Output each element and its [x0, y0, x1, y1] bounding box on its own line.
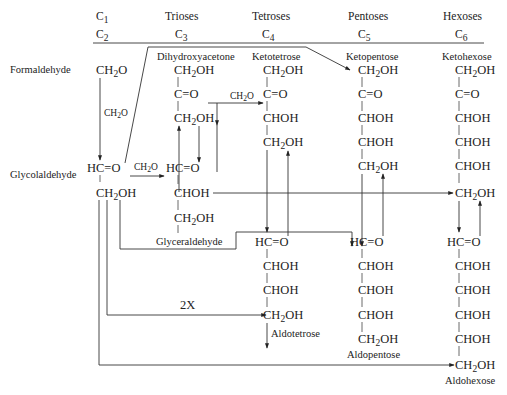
kp-co: C=O [358, 87, 382, 101]
column-header-c1-c2: C1 C2 [96, 10, 109, 43]
ah-chohh-4: CHOH [455, 332, 490, 346]
label-ketotetrose: Ketotetrose [252, 51, 301, 62]
svg-text:Pentoses: Pentoses [348, 10, 389, 22]
dha-ch2oh-bottom: CH2OH [174, 111, 214, 127]
label-dihydroxyacetone: Dihydroxyacetone [157, 51, 235, 62]
column-header-pentoses: Pentoses C5 [348, 10, 389, 43]
arrow-glycolaldehyde-to-ketopentose [125, 47, 350, 163]
kh-co: C=O [455, 87, 479, 101]
label-glycolaldehyde: Glycolaldehyde [10, 169, 77, 180]
kp-ch2oh: CH2OH [358, 63, 398, 79]
ah-chohh-2: CHOH [455, 283, 490, 297]
ap-ch2oh: CH2OH [358, 332, 398, 348]
at-chohh-2: CHOH [263, 283, 298, 297]
column-header-tetroses: Tetroses C4 [252, 10, 291, 43]
formaldehyde-ch2o: CH2O [96, 63, 127, 79]
glyceraldehyde-hco: HC=O [166, 161, 199, 175]
ap-chohh-2: CHOH [358, 283, 393, 297]
svg-text:C4: C4 [262, 28, 275, 43]
svg-text:C1: C1 [96, 10, 109, 25]
ah-ch2oh: CH2OH [455, 358, 495, 374]
label-ketopentose: Ketopentose [346, 51, 399, 62]
column-header-trioses: Trioses C3 [165, 10, 199, 43]
kt-co: C=O [263, 87, 287, 101]
label-formaldehyde: Formaldehyde [10, 64, 71, 75]
kp-chohh-2: CHOH [358, 135, 393, 149]
kt-ch2oh: CH2OH [263, 63, 303, 79]
glyceraldehyde-ch2oh: CH2OH [174, 211, 214, 227]
label-aldohexose: Aldohexose [445, 375, 495, 386]
ah-hco: HC=O [447, 235, 480, 249]
arrow-glycolaldehyde-to-aldopentose [120, 200, 352, 249]
ap-hco: HC=O [350, 235, 383, 249]
label-ch2o-1: CH2O [104, 108, 128, 120]
glycolaldehyde-hco: HC=O [87, 161, 120, 175]
label-glyceraldehyde: Glyceraldehyde [156, 236, 223, 247]
kp-chohh-1: CHOH [358, 111, 393, 125]
svg-text:Trioses: Trioses [165, 10, 199, 22]
svg-text:Hexoses: Hexoses [443, 10, 482, 22]
label-aldotetrose: Aldotetrose [271, 328, 320, 339]
kp-ch2oh-bottom: CH2OH [358, 159, 398, 175]
svg-text:C6: C6 [455, 28, 468, 43]
svg-text:C5: C5 [358, 28, 371, 43]
glyceraldehyde-chohh: CHOH [174, 186, 209, 200]
formose-reaction-diagram: C1 C2 Trioses C3 Tetroses C4 Pentoses C5… [0, 0, 507, 395]
label-ch2o-2: CH2O [134, 162, 158, 174]
svg-text:Tetroses: Tetroses [252, 10, 291, 22]
label-ch2o-3: CH2O [230, 91, 254, 103]
dha-ch2oh-top: CH2OH [174, 63, 214, 79]
svg-text:C3: C3 [175, 28, 188, 43]
glycolaldehyde-ch2oh: CH2OH [96, 186, 136, 202]
kh-ch2oh-bottom: CH2OH [455, 186, 495, 202]
ah-chohh-1: CHOH [455, 259, 490, 273]
column-header-hexoses: Hexoses C6 [443, 10, 482, 43]
at-chohh-1: CHOH [263, 259, 298, 273]
dha-co: C=O [174, 87, 198, 101]
kh-ch2oh: CH2OH [455, 63, 495, 79]
ah-chohh-3: CHOH [455, 308, 490, 322]
ap-chohh-3: CHOH [358, 308, 393, 322]
kt-chohh: CHOH [263, 111, 298, 125]
label-ketohexose: Ketohexose [442, 51, 492, 62]
kh-chohh-3: CHOH [455, 159, 490, 173]
at-hco: HC=O [255, 235, 288, 249]
ap-chohh-1: CHOH [358, 259, 393, 273]
kt-ch2oh-bottom: CH2OH [263, 135, 303, 151]
svg-text:C2: C2 [96, 28, 109, 43]
at-ch2oh: CH2OH [263, 308, 303, 324]
label-2x: 2X [180, 298, 195, 312]
kh-chohh-1: CHOH [455, 111, 490, 125]
label-aldopentose: Aldopentose [347, 349, 400, 360]
kh-chohh-2: CHOH [455, 135, 490, 149]
